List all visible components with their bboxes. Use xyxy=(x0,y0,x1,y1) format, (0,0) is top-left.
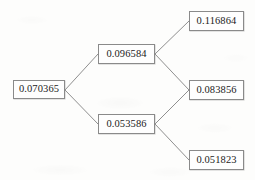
tree-node-value: 0.051823 xyxy=(196,155,236,166)
tree-node-n2ud: 0.083856 xyxy=(189,80,244,100)
tree-node-value: 0.096584 xyxy=(106,49,146,60)
tree-edge-n0-to-n1u xyxy=(65,54,98,90)
tree-edge-n1d-to-n2dd xyxy=(155,124,189,160)
tree-node-value: 0.070365 xyxy=(19,84,59,95)
tree-edge-n0-to-n1d xyxy=(65,90,98,124)
tree-edge-n1d-to-n2ud xyxy=(155,90,189,124)
tree-edge-n1u-to-n2uu xyxy=(155,21,189,54)
tree-node-n2uu: 0.116864 xyxy=(189,11,244,31)
tree-node-value: 0.116864 xyxy=(197,16,237,27)
tree-node-n0: 0.070365 xyxy=(13,80,65,99)
tree-node-n1d: 0.053586 xyxy=(98,114,155,134)
tree-node-n2dd: 0.051823 xyxy=(189,150,244,170)
tree-node-value: 0.053586 xyxy=(106,119,146,130)
tree-node-n1u: 0.096584 xyxy=(98,44,155,64)
tree-node-value: 0.083856 xyxy=(196,85,236,96)
tree-edge-n1u-to-n2ud xyxy=(155,54,189,90)
binomial-tree-diagram: 0.0703650.0965840.0535860.1168640.083856… xyxy=(0,0,255,180)
